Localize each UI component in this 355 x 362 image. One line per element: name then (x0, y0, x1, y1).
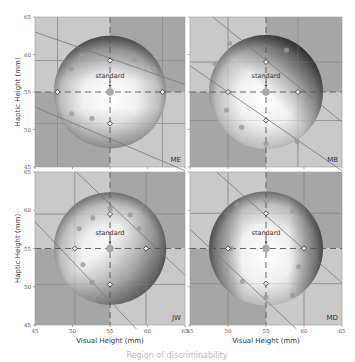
sample-point (295, 139, 300, 144)
standard-label: standard (96, 229, 125, 237)
figure-caption: Region of discriminability (126, 351, 227, 360)
y-tick-label: 65 (24, 169, 31, 175)
panel-mb: standardMB (188, 17, 342, 171)
standard-point (262, 245, 270, 253)
sample-point (90, 215, 95, 220)
standard-point (106, 245, 114, 253)
x-tick-label: 50 (69, 328, 76, 334)
x-tick-label: 45 (32, 328, 39, 334)
y-tick-label: 65 (24, 14, 31, 20)
sample-point (128, 212, 133, 217)
sample-point (239, 125, 244, 130)
x-tick-label: 50 (225, 328, 232, 334)
y-tick-label: 55 (24, 89, 31, 95)
panel-label: MB (327, 156, 338, 164)
sample-point (284, 47, 289, 52)
y-axis-title: Haptic Height (mm) (14, 214, 22, 283)
sample-point (227, 41, 232, 46)
y-tick-label: 50 (24, 127, 31, 133)
panel-label: JW (171, 314, 181, 322)
x-tick-label: 60 (301, 328, 308, 334)
sample-point (263, 53, 268, 58)
x-tick-label: 65 (339, 328, 346, 334)
sample-point (79, 53, 84, 58)
sample-point (290, 293, 295, 298)
x-axis-title: Visual Height (mm) (232, 337, 300, 345)
y-tick-label: 50 (24, 284, 31, 290)
sample-point (224, 107, 229, 112)
sample-point (151, 66, 156, 71)
sample-point (235, 202, 240, 207)
sample-point (77, 226, 82, 231)
sample-point (290, 208, 295, 213)
sample-point (69, 111, 74, 116)
panel-me: standardME4550556065Haptic Height (mm) (14, 14, 185, 171)
x-tick-label: 60 (144, 328, 151, 334)
figure: standardME4550556065Haptic Height (mm)st… (0, 0, 355, 362)
y-tick-label: 55 (24, 246, 31, 252)
sample-point (68, 66, 73, 71)
sample-point (263, 295, 268, 300)
panel-label: ME (171, 156, 181, 164)
sample-point (89, 280, 94, 285)
sample-point (212, 61, 217, 66)
standard-label: standard (96, 72, 125, 80)
x-axis-title: Visual Height (mm) (76, 337, 144, 345)
x-tick-label: 55 (263, 328, 270, 334)
sample-point (137, 226, 142, 231)
panel-label: MD (327, 314, 338, 322)
panel-md: standardMD4550556065Visual Height (mm) (187, 172, 346, 345)
standard-point (106, 88, 114, 96)
y-tick-label: 60 (24, 52, 31, 58)
sample-point (296, 264, 301, 269)
y-tick-label: 60 (24, 207, 31, 213)
sample-point (263, 141, 268, 146)
sample-point (240, 279, 245, 284)
sample-point (222, 267, 227, 272)
x-tick-label: 45 (187, 328, 194, 334)
sample-point (80, 262, 85, 267)
sample-point (107, 206, 112, 211)
y-tick-label: 45 (24, 322, 31, 328)
sample-point (131, 57, 136, 62)
standard-label: standard (252, 229, 281, 237)
sample-point (263, 198, 268, 203)
standard-label: standard (252, 72, 281, 80)
panel-jw: standardJW45505560654550556065Visual Hei… (14, 169, 189, 345)
y-axis-title: Haptic Height (mm) (14, 57, 22, 126)
sample-point (89, 116, 94, 121)
standard-point (262, 88, 270, 96)
x-tick-label: 55 (107, 328, 114, 334)
